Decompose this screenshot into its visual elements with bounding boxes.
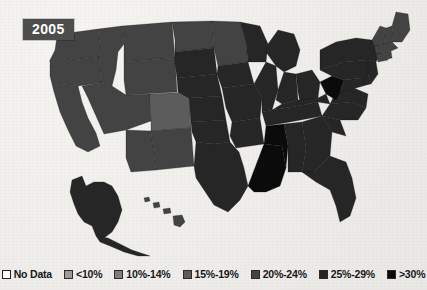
year-badge: 2005: [23, 19, 74, 40]
state-SD[interactable]: [175, 48, 217, 78]
state-ME[interactable]: [392, 12, 410, 42]
legend-swatch-icon: [114, 270, 123, 279]
state-AR[interactable]: [230, 118, 264, 148]
legend-item[interactable]: 25%-29%: [319, 269, 375, 280]
legend-item-label: No Data: [14, 269, 52, 280]
state-CO[interactable]: [150, 92, 191, 131]
state-MT[interactable]: [122, 22, 175, 62]
legend-item-label: 15%-19%: [195, 269, 239, 280]
legend: No Data <10% 10%-14% 15%-19% 20%-24% 25%…: [0, 264, 427, 284]
legend-item-label: >30%: [399, 269, 425, 280]
state-MO[interactable]: [222, 84, 262, 122]
legend-item-label: 20%-24%: [263, 269, 307, 280]
state-KS[interactable]: [189, 96, 226, 122]
state-AK-aleutians[interactable]: [96, 236, 150, 256]
legend-swatch-icon: [64, 270, 73, 279]
legend-swatch-icon: [2, 270, 11, 279]
state-HI-maui[interactable]: [163, 208, 171, 214]
legend-swatch-icon: [251, 270, 260, 279]
state-OK[interactable]: [191, 120, 230, 144]
legend-item[interactable]: 10%-14%: [114, 269, 170, 280]
state-NE[interactable]: [177, 74, 222, 98]
state-ID[interactable]: [98, 26, 124, 86]
legend-item-label: 10%-14%: [126, 269, 170, 280]
state-HI-big-island[interactable]: [173, 215, 185, 227]
state-LA[interactable]: [248, 144, 286, 192]
state-OH[interactable]: [296, 70, 320, 102]
state-TX[interactable]: [194, 142, 248, 212]
legend-item-label: 25%-29%: [331, 269, 375, 280]
legend-swatch-icon: [319, 270, 328, 279]
state-ND[interactable]: [172, 21, 214, 52]
state-HI-oahu[interactable]: [153, 202, 160, 208]
legend-swatch-icon: [387, 270, 396, 279]
state-HI-kauai[interactable]: [144, 197, 150, 202]
legend-item[interactable]: >30%: [387, 269, 425, 280]
map-figure: 2005 No Data <10% 10%-14% 15%-19% 20%-24…: [0, 0, 427, 290]
legend-item[interactable]: <10%: [64, 269, 102, 280]
legend-item[interactable]: 15%-19%: [183, 269, 239, 280]
legend-swatch-icon: [183, 270, 192, 279]
legend-item[interactable]: 20%-24%: [251, 269, 307, 280]
legend-item[interactable]: No Data: [2, 269, 52, 280]
states-layer: [50, 12, 410, 256]
state-NM[interactable]: [151, 128, 194, 170]
state-IA[interactable]: [217, 62, 254, 88]
state-WY[interactable]: [124, 58, 177, 95]
legend-item-label: <10%: [76, 269, 102, 280]
state-AK[interactable]: [70, 176, 122, 238]
state-IN[interactable]: [276, 72, 298, 104]
